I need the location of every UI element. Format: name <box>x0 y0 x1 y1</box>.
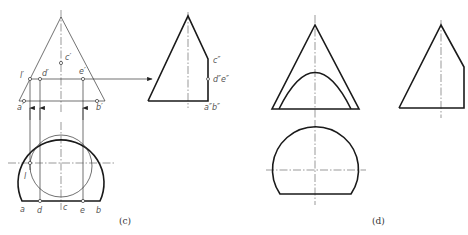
c-top-view: l a d c e b <box>8 122 114 215</box>
point-l <box>28 77 31 80</box>
caption-d: (d) <box>372 216 385 226</box>
label-ab-dprime: a″b″ <box>204 103 220 112</box>
label-e: e <box>80 206 85 215</box>
d-front-view <box>272 15 359 118</box>
label-c: c <box>63 203 68 212</box>
label-c-dprime: c″ <box>213 56 220 65</box>
label-c-prime: c′ <box>65 53 71 62</box>
c-front-view: l′ d′ c′ e′ a′ b′ <box>17 10 152 200</box>
point-l-top <box>28 161 31 164</box>
label-d-prime: d′ <box>42 69 49 78</box>
cone-section-drawing: l′ d′ c′ e′ a′ b′ c″ d″e″ a″b″ l a d c e… <box>0 0 468 235</box>
label-e-prime: e′ <box>79 67 86 76</box>
point-de <box>207 78 210 81</box>
label-a: a <box>20 205 25 214</box>
label-b-prime: b′ <box>96 103 103 112</box>
point-e <box>81 77 84 80</box>
label-d: d <box>37 206 43 215</box>
c-front-cone <box>19 17 105 101</box>
label-l: l <box>24 172 27 181</box>
d-top-view <box>266 120 366 205</box>
d-side-profile <box>399 25 464 108</box>
point-c <box>59 61 62 64</box>
label-b: b <box>96 206 101 215</box>
d-top-outline <box>272 127 358 194</box>
label-de-dprime: d″e″ <box>213 75 229 84</box>
d-side-view <box>399 20 464 118</box>
label-a-prime: a′ <box>17 103 24 112</box>
c-side-profile <box>148 16 208 101</box>
point-e-top <box>81 199 84 202</box>
label-l-prime: l′ <box>20 71 24 80</box>
c-side-view: c″ d″e″ a″b″ <box>148 12 229 112</box>
point-d-top <box>38 199 41 202</box>
caption-c: (c) <box>119 216 131 226</box>
